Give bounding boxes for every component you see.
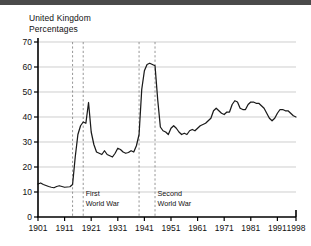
chart-plot: 010203040506070FirstWorld WarSecondWorld…	[0, 0, 311, 246]
x-tick-label-1951: 1951	[162, 223, 181, 233]
x-tick-label-1901: 1901	[29, 223, 48, 233]
y-tick-label-40: 40	[23, 112, 33, 122]
data-series-line	[38, 63, 296, 188]
annotation-0-line2: World War	[86, 199, 120, 208]
x-tick-label-1991: 1991	[268, 223, 287, 233]
y-tick-label-20: 20	[23, 162, 33, 172]
x-tick-label-1931: 1931	[108, 223, 127, 233]
x-tick-label-1961: 1961	[188, 223, 207, 233]
annotation-1-line1: Second	[158, 189, 182, 198]
x-tick-label-1981: 1981	[241, 223, 260, 233]
annotation-1-line2: World War	[158, 199, 192, 208]
y-tick-label-70: 70	[23, 37, 33, 47]
y-tick-label-50: 50	[23, 87, 33, 97]
x-tick-label-1971: 1971	[215, 223, 234, 233]
y-tick-label-60: 60	[23, 62, 33, 72]
chart-container: United Kingdom Percentages 0102030405060…	[0, 0, 311, 246]
x-tick-label-1941: 1941	[135, 223, 154, 233]
x-tick-label-1998: 1998	[287, 223, 306, 233]
y-tick-label-10: 10	[23, 187, 33, 197]
x-tick-label-1921: 1921	[82, 223, 101, 233]
x-tick-label-1911: 1911	[55, 223, 74, 233]
annotation-0-line1: First	[86, 189, 100, 198]
y-tick-label-0: 0	[27, 212, 32, 222]
y-tick-label-30: 30	[23, 137, 33, 147]
